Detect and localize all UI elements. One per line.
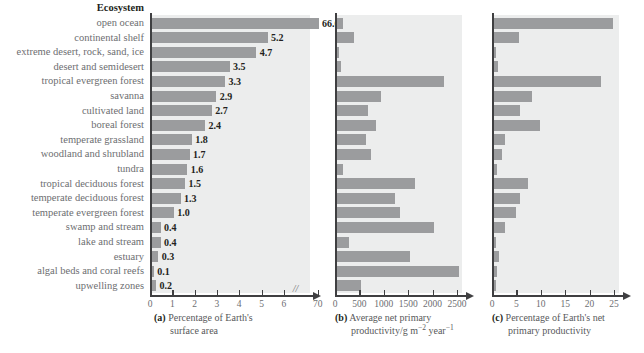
bar [494, 47, 496, 58]
bar-value-label: 4.7 [260, 47, 273, 58]
bar [152, 280, 156, 291]
bar [337, 105, 369, 116]
panel-caption-line2: primary productivity [492, 325, 642, 338]
ecosystem-label: tropical evergreen forest [42, 74, 144, 88]
x-axis-tick [614, 290, 615, 295]
bar [337, 32, 355, 43]
x-axis-tick [408, 290, 409, 295]
x-axis-tick [516, 290, 517, 295]
bar [494, 105, 520, 116]
ecosystem-label-column: Ecosystem open oceancontinental shelfext… [0, 0, 148, 353]
bar [337, 134, 366, 145]
ecosystem-label: temperate deciduous forest [31, 191, 144, 205]
x-axis-tick-label: 6 [270, 299, 298, 309]
bar [494, 18, 613, 29]
bar-value-label: 2.4 [209, 120, 222, 131]
x-axis-tick [384, 290, 385, 295]
bar [494, 76, 601, 87]
bar-value-label: 5.2 [271, 32, 284, 43]
ecosystem-label: temperate evergreen forest [32, 206, 144, 220]
x-axis-tick [284, 290, 285, 295]
panel-tag: (c) [492, 312, 503, 323]
bar [494, 32, 519, 43]
panel-caption: (a) Percentage of Earth'ssurface area [154, 312, 322, 337]
bar-value-label: 2.7 [215, 105, 228, 116]
axis-break-marker-icon: // [293, 284, 299, 294]
x-axis-tick [492, 290, 493, 295]
plot-background [492, 15, 619, 293]
x-axis-tick [590, 290, 591, 295]
bar [337, 18, 343, 29]
x-axis-tick-label: 2500 [443, 299, 471, 309]
bar-value-label: 0.3 [162, 251, 175, 262]
ecosystem-label: continental shelf [74, 31, 144, 45]
ecosystem-label: lake and stream [78, 235, 144, 249]
x-axis-tick [541, 290, 542, 295]
bar [337, 164, 344, 175]
bar [152, 47, 257, 58]
x-axis-tick [335, 290, 336, 295]
ecosystem-label: boreal forest [91, 118, 144, 132]
bar [337, 149, 371, 160]
bar-value-label: 0.2 [159, 280, 172, 291]
ecosystem-label: tundra [117, 162, 144, 176]
ecosystem-label: estuary [114, 250, 144, 264]
bar [152, 164, 188, 175]
bar [152, 207, 174, 218]
bar [152, 251, 159, 262]
bar [337, 76, 444, 87]
bar [152, 76, 226, 87]
panel-c-percentage-npp: 0510152025(c) Percentage of Earth's netp… [492, 0, 632, 353]
panel-a-surface-area: 66.05.24.73.53.32.92.72.41.81.71.61.51.3… [150, 0, 322, 353]
bar [152, 222, 161, 233]
x-axis-tick [262, 290, 263, 295]
bar [337, 178, 415, 189]
bar [494, 91, 533, 102]
bar-value-label: 1.6 [191, 164, 204, 175]
x-axis-tick [150, 290, 151, 295]
ecosystem-label: open ocean [96, 16, 144, 30]
bar [494, 207, 516, 218]
bar [337, 280, 361, 291]
bar-value-label: 0.1 [157, 266, 170, 277]
bar-value-label: 0.4 [164, 237, 177, 248]
bar [494, 134, 506, 145]
panel-caption: (b) Average net primaryproductivity/g m−… [335, 312, 485, 337]
bar [152, 178, 185, 189]
bar [337, 120, 376, 131]
ecosystem-label: cultivated land [82, 104, 144, 118]
bar [337, 193, 396, 204]
panel-caption-line1: Percentage of Earth's net [506, 312, 605, 323]
bar-value-label: 2.9 [220, 91, 233, 102]
bar [337, 47, 339, 58]
bar [494, 164, 497, 175]
panel-tag: (b) [335, 312, 347, 323]
bar [152, 134, 192, 145]
ecosystem-column-header: Ecosystem [97, 1, 144, 15]
bar-value-label: 1.8 [195, 134, 208, 145]
ecosystem-label: upwelling zones [75, 279, 144, 293]
x-axis-tick [318, 290, 319, 295]
bar [152, 91, 217, 102]
x-axis-tick [195, 290, 196, 295]
bar [152, 237, 161, 248]
bar [494, 251, 499, 262]
x-axis-tick [359, 290, 360, 295]
ecosystem-label: swamp and stream [66, 220, 144, 234]
panel-caption: (c) Percentage of Earth's netprimary pro… [492, 312, 642, 337]
bar [152, 193, 181, 204]
bar-value-label: 3.5 [233, 61, 246, 72]
bar [152, 18, 319, 29]
bar [494, 193, 520, 204]
bar-value-label: 1.3 [184, 193, 197, 204]
bar [152, 105, 212, 116]
bar [494, 222, 505, 233]
bar [494, 280, 496, 291]
bar-value-label: 1.0 [177, 207, 190, 218]
bar-value-label: 0.4 [164, 222, 177, 233]
ecosystem-label: tropical deciduous forest [40, 177, 144, 191]
x-axis-line [335, 295, 467, 296]
x-axis-tick-label: 25 [600, 299, 628, 309]
x-axis-tick [217, 290, 218, 295]
bar [337, 61, 341, 72]
